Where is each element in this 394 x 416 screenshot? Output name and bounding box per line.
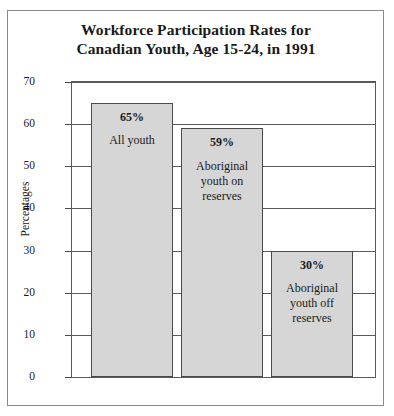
bar-value-label: 59% bbox=[210, 136, 234, 149]
y-axis-tick bbox=[65, 335, 71, 336]
y-axis-tick bbox=[65, 82, 71, 83]
bar-value-label: 65% bbox=[120, 111, 144, 124]
bar-category-line: All youth bbox=[95, 133, 169, 148]
y-axis-tick-label: 20 bbox=[0, 287, 35, 299]
y-axis-tick bbox=[65, 377, 71, 378]
bar-category-label: Aboriginalyouth onreserves bbox=[182, 159, 262, 204]
bar: 30%Aboriginalyouth offreserves bbox=[271, 251, 353, 377]
y-axis-tick bbox=[65, 293, 71, 294]
bar-category-line: reserves bbox=[275, 311, 349, 326]
y-axis-tick-label: 30 bbox=[0, 245, 35, 257]
bar-category-line: youth on bbox=[185, 174, 259, 189]
y-axis-tick-label: 50 bbox=[0, 160, 35, 172]
y-axis-tick bbox=[65, 208, 71, 209]
bar-category-line: reserves bbox=[185, 189, 259, 204]
gridline bbox=[72, 82, 375, 83]
bar-category-label: All youth bbox=[92, 133, 172, 148]
y-axis-tick-label: 10 bbox=[0, 329, 35, 341]
figure-frame: Workforce Participation Rates for Canadi… bbox=[7, 10, 384, 406]
y-axis-tick-label: 70 bbox=[0, 76, 35, 88]
bar: 65%All youth bbox=[91, 103, 173, 377]
plot-area: 706050403020100 65%All youth59%Aborigina… bbox=[71, 81, 376, 378]
bar-category-line: youth off bbox=[275, 296, 349, 311]
chart-title-line-2: Canadian Youth, Age 15-24, in 1991 bbox=[16, 39, 376, 58]
page-title: Workforce Participation Rates for Canadi… bbox=[16, 20, 376, 58]
bar-category-line: Aboriginal bbox=[275, 281, 349, 296]
bar-category-label: Aboriginalyouth offreserves bbox=[272, 281, 352, 326]
y-axis-tick-label: 0 bbox=[0, 371, 35, 383]
chart-title-line-1: Workforce Participation Rates for bbox=[16, 20, 376, 39]
y-axis-tick bbox=[65, 124, 71, 125]
y-axis-tick-label: 60 bbox=[0, 118, 35, 130]
y-axis-tick bbox=[65, 166, 71, 167]
y-axis-tick bbox=[65, 251, 71, 252]
bar-value-label: 30% bbox=[300, 259, 324, 272]
bar: 59%Aboriginalyouth onreserves bbox=[181, 128, 263, 377]
y-axis-tick-label: 40 bbox=[0, 202, 35, 214]
bar-category-line: Aboriginal bbox=[185, 159, 259, 174]
